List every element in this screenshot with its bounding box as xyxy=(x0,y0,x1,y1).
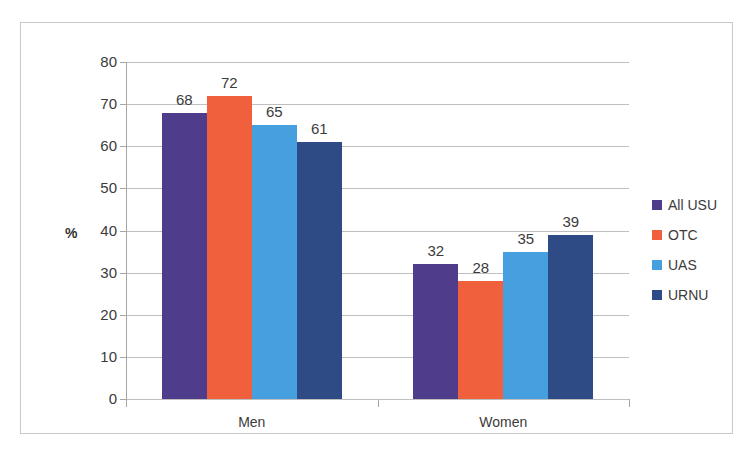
bar[interactable] xyxy=(413,264,458,399)
bar[interactable] xyxy=(207,96,252,399)
bar[interactable] xyxy=(252,125,297,399)
y-axis-tick-label: 50 xyxy=(100,180,117,195)
y-axis-tick-label: 0 xyxy=(109,391,117,406)
y-axis-tick-label: 20 xyxy=(100,307,117,322)
legend-item[interactable]: OTC xyxy=(652,220,717,250)
legend-label: UAS xyxy=(668,258,697,272)
y-axis-tick xyxy=(120,188,127,189)
y-axis-tick xyxy=(120,315,127,316)
legend-item[interactable]: UAS xyxy=(652,250,717,280)
legend-label: URNU xyxy=(668,288,708,302)
y-axis-tick xyxy=(120,357,127,358)
bar-value-label: 35 xyxy=(503,231,548,246)
legend-swatch-icon xyxy=(652,260,662,270)
bar-value-label: 39 xyxy=(548,214,593,229)
legend-label: OTC xyxy=(668,228,698,242)
y-axis-title: % xyxy=(65,226,77,240)
bar-value-label: 65 xyxy=(252,104,297,119)
y-axis-tick-label: 40 xyxy=(100,223,117,238)
y-axis-tick xyxy=(120,231,127,232)
bar-value-label: 28 xyxy=(458,260,503,275)
y-axis-tick-label: 60 xyxy=(100,138,117,153)
y-axis-tick-label: 70 xyxy=(100,96,117,111)
x-axis-end-tick xyxy=(629,400,630,407)
bar-value-label: 68 xyxy=(162,92,207,107)
legend-swatch-icon xyxy=(652,230,662,240)
legend-swatch-icon xyxy=(652,200,662,210)
legend-item[interactable]: All USU xyxy=(652,190,717,220)
bar-value-label: 61 xyxy=(297,121,342,136)
plot-area: 6872656132283539 xyxy=(126,62,629,399)
y-axis-tick-label: 30 xyxy=(100,265,117,280)
chart-legend: All USUOTCUASURNU xyxy=(652,190,717,310)
y-axis-tick-label: 10 xyxy=(100,349,117,364)
x-axis-category-label: Women xyxy=(433,415,573,429)
y-axis-tick xyxy=(120,62,127,63)
bar-value-label: 72 xyxy=(207,75,252,90)
y-axis-tick xyxy=(120,104,127,105)
bar[interactable] xyxy=(548,235,593,399)
bar[interactable] xyxy=(458,281,503,399)
x-axis-category-label: Men xyxy=(182,415,322,429)
y-axis-tick xyxy=(120,146,127,147)
x-axis-group-separator xyxy=(378,400,379,407)
legend-label: All USU xyxy=(668,198,717,212)
chart-frame: 6872656132283539 01020304050607080 % Men… xyxy=(20,22,733,434)
y-axis-tick xyxy=(120,273,127,274)
bar[interactable] xyxy=(503,252,548,399)
bar[interactable] xyxy=(162,113,207,399)
legend-item[interactable]: URNU xyxy=(652,280,717,310)
bar-value-label: 32 xyxy=(413,243,458,258)
x-axis-end-tick xyxy=(126,400,127,407)
gridline xyxy=(126,62,629,63)
y-axis-tick-label: 80 xyxy=(100,54,117,69)
legend-swatch-icon xyxy=(652,290,662,300)
bar[interactable] xyxy=(297,142,342,399)
